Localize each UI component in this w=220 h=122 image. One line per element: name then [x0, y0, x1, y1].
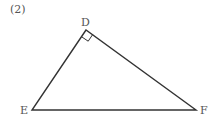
vertex-label-d: D: [81, 17, 90, 28]
vertex-label-f: F: [200, 105, 208, 116]
triangle-diagram: [0, 0, 220, 122]
right-angle-marker: [82, 35, 93, 42]
vertex-label-e: E: [20, 105, 28, 116]
triangle-def: [32, 30, 196, 110]
